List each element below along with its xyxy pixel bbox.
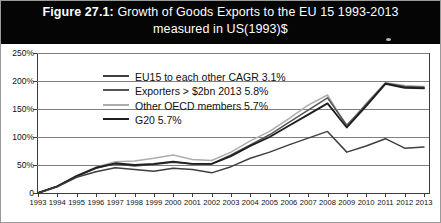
y-tick-label: 250% — [2, 49, 34, 58]
x-tick-mark — [424, 194, 425, 197]
legend-label-g20: G20 5.7% — [135, 113, 182, 127]
x-tick-mark — [154, 194, 155, 197]
figure-title: Figure 27.1: Growth of Goods Exports to … — [1, 4, 440, 38]
legend-swatch-eu15 — [103, 75, 129, 77]
x-tick-label: 2013 — [412, 198, 436, 208]
x-tick-mark — [289, 194, 290, 197]
x-tick-mark — [347, 194, 348, 197]
series-line — [38, 131, 424, 193]
chart-legend: EU15 to each other CAGR 3.1% Exporters >… — [103, 67, 333, 125]
legend-item: Exporters > $2bn 2013 5.8% — [103, 82, 333, 97]
y-tick-label: 100% — [2, 133, 34, 142]
figure-screenshot: Figure 27.1: Growth of Goods Exports to … — [0, 0, 441, 223]
figure-title-line1: Growth of Goods Exports to the EU 15 199… — [114, 5, 399, 19]
x-tick-mark — [57, 194, 58, 197]
x-tick-mark — [250, 194, 251, 197]
plot-area: EU15 to each other CAGR 3.1% Exporters >… — [37, 53, 429, 193]
x-tick-mark — [77, 194, 78, 197]
x-tick-mark — [308, 194, 309, 197]
x-tick-mark — [135, 194, 136, 197]
chart-area: 250%200%150%100%50%0 EU15 to each other … — [1, 44, 440, 222]
x-tick-mark — [212, 194, 213, 197]
x-tick-mark — [366, 194, 367, 197]
x-tick-mark — [270, 194, 271, 197]
y-tick-label: 150% — [2, 105, 34, 114]
x-tick-mark — [231, 194, 232, 197]
title-band: Figure 27.1: Growth of Goods Exports to … — [1, 1, 440, 44]
scan-artifact-speck — [386, 38, 391, 41]
x-tick-mark — [405, 194, 406, 197]
legend-swatch-g20 — [103, 118, 129, 120]
legend-swatch-exporters — [103, 89, 129, 91]
y-axis-labels: 250%200%150%100%50%0 — [1, 53, 34, 198]
y-tick-label: 200% — [2, 77, 34, 86]
y-tick-label: 0 — [2, 189, 34, 198]
x-tick-mark — [38, 194, 39, 197]
x-tick-mark — [115, 194, 116, 197]
legend-swatch-oecd — [103, 104, 129, 106]
figure-number: Figure 27.1: — [42, 5, 113, 19]
x-tick-mark — [173, 194, 174, 197]
plot-right-border — [429, 53, 430, 194]
x-tick-mark — [96, 194, 97, 197]
x-tick-mark — [328, 194, 329, 197]
x-tick-mark — [192, 194, 193, 197]
x-axis-labels: 1993199419951996199719981999200020012002… — [37, 198, 433, 212]
legend-item: EU15 to each other CAGR 3.1% — [103, 67, 333, 82]
legend-item: Other OECD members 5.7% — [103, 96, 333, 111]
figure-title-line2: measured in US(1993)$ — [1, 21, 440, 38]
y-tick-label: 50% — [2, 161, 34, 170]
legend-item: G20 5.7% — [103, 111, 333, 126]
x-tick-mark — [385, 194, 386, 197]
